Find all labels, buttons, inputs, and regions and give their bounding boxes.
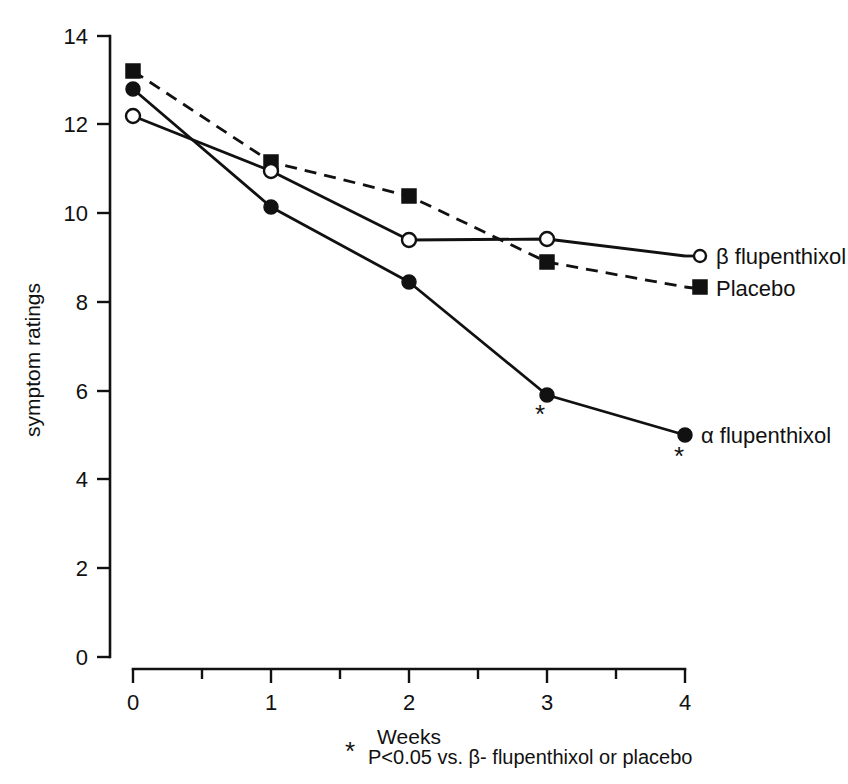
y-tick-label-0: 0: [76, 645, 88, 670]
line-chart-canvas: 14 12 10 8 6 4 2 0 symptom ratings: [0, 0, 848, 784]
legend-label-placebo: Placebo: [716, 276, 796, 301]
y-tick-label-12: 12: [64, 112, 88, 137]
legend-label-beta: β flupenthixol: [716, 244, 846, 269]
placebo-marker-week-2: [402, 189, 416, 203]
beta-marker-week-2: [402, 233, 416, 247]
alpha-marker-week-0: [126, 82, 140, 96]
legend: β flupenthixol Placebo α flupenthixol: [701, 244, 846, 448]
placebo-line: [133, 71, 685, 287]
y-tick-label-8: 8: [76, 290, 88, 315]
x-tick-label-2: 2: [403, 690, 415, 715]
series-beta-flupenthixol: [126, 109, 706, 262]
x-axis-major-ticks: [133, 669, 685, 683]
x-axis-tick-labels: 0 1 2 3 4: [127, 690, 691, 715]
y-tick-label-2: 2: [76, 556, 88, 581]
footnote-text: P<0.05 vs. β- flupenthixol or placebo: [368, 746, 692, 768]
x-tick-label-1: 1: [265, 690, 277, 715]
x-tick-label-4: 4: [679, 690, 691, 715]
x-axis: 0 1 2 3 4 Weeks: [127, 669, 691, 748]
x-tick-label-0: 0: [127, 690, 139, 715]
significance-markers: * *: [535, 399, 684, 471]
alpha-marker-week-2: [402, 275, 416, 289]
y-axis-tick-labels: 14 12 10 8 6 4 2 0: [64, 24, 88, 670]
y-axis-title: symptom ratings: [21, 283, 44, 437]
beta-marker-week-3: [540, 232, 554, 246]
y-tick-label-4: 4: [76, 467, 88, 492]
legend-label-alpha: α flupenthixol: [701, 423, 831, 448]
series-placebo: [126, 64, 707, 294]
placebo-marker-week-3: [540, 255, 554, 269]
x-tick-label-3: 3: [541, 690, 553, 715]
significance-asterisk-week-4: *: [674, 441, 684, 471]
beta-marker-week-0: [126, 109, 140, 123]
alpha-marker-week-1: [264, 200, 278, 214]
beta-marker-week-1: [264, 164, 278, 178]
placebo-legend-leader: [685, 287, 693, 288]
y-tick-label-10: 10: [64, 201, 88, 226]
placebo-legend-marker: [693, 280, 707, 294]
placebo-marker-week-0: [126, 64, 140, 78]
series-alpha-flupenthixol: [126, 82, 692, 442]
y-axis-ticks: [97, 36, 110, 657]
footnote-asterisk: *: [345, 736, 355, 766]
alpha-flupenthixol-line: [133, 89, 685, 435]
y-tick-label-6: 6: [76, 379, 88, 404]
y-axis: 14 12 10 8 6 4 2 0 symptom ratings: [21, 24, 110, 670]
y-tick-label-14: 14: [64, 24, 88, 49]
alpha-legend-marker: [678, 428, 692, 442]
chart-figure: 14 12 10 8 6 4 2 0 symptom ratings: [0, 0, 848, 784]
beta-legend-marker: [694, 250, 706, 262]
x-axis-title: Weeks: [377, 725, 441, 748]
significance-asterisk-week-3: *: [535, 399, 545, 429]
